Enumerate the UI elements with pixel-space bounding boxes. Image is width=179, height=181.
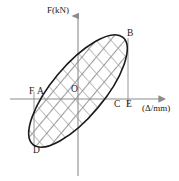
- point-label-a: A: [37, 87, 44, 97]
- hysteresis-loop-figure: F(kN) (Δ/mm) O B C E F A D: [0, 0, 179, 181]
- x-axis-label: (Δ/mm): [142, 104, 170, 113]
- y-axis-label: F(kN): [47, 6, 69, 15]
- point-label-d: D: [33, 146, 40, 156]
- loop-hatch-fill: [0, 0, 179, 181]
- point-label-e: E: [126, 100, 132, 110]
- origin-label: O: [71, 85, 78, 95]
- point-label-f: F: [29, 87, 34, 97]
- point-label-c: C: [114, 100, 120, 110]
- diagram-canvas: [0, 0, 179, 181]
- point-label-b: B: [127, 29, 133, 39]
